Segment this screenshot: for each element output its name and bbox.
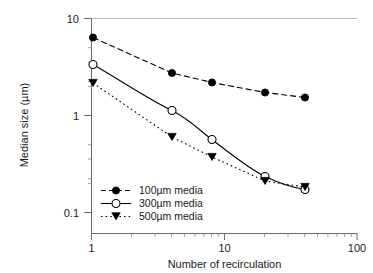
- data-point: [89, 61, 97, 69]
- y-axis-title: Median size (µm): [18, 83, 30, 168]
- data-point: [89, 79, 97, 86]
- legend-label-300um: 300µm media: [139, 197, 203, 209]
- axis-lines: [92, 18, 358, 234]
- legend: 100µm media 300µm media 500µm media: [101, 184, 203, 222]
- legend-item-300um: 300µm media: [101, 197, 203, 209]
- y-tick-label-top: 10: [67, 13, 79, 25]
- data-point: [168, 107, 176, 115]
- series-500um: [89, 79, 309, 190]
- x-axis-ticks: [92, 234, 358, 241]
- series-300um: [89, 61, 309, 194]
- data-point: [261, 177, 269, 184]
- legend-label-500um: 500µm media: [139, 210, 203, 222]
- legend-marker-filled-circle-icon: [112, 187, 119, 194]
- series-100um-line: [93, 38, 305, 98]
- y-tick-label-bottom: 0.1: [64, 207, 79, 219]
- legend-marker-open-circle-icon: [112, 200, 120, 208]
- chart-svg: 10 1 0.1 1 10 100 Number of recirculatio…: [0, 0, 373, 273]
- x-axis-title: Number of recirculation: [168, 258, 282, 270]
- x-tick-label-right: 100: [348, 242, 366, 254]
- legend-item-100um: 100µm media: [101, 184, 203, 196]
- data-point: [261, 89, 268, 96]
- series-500um-line: [93, 83, 305, 187]
- data-point: [208, 136, 216, 144]
- data-point: [301, 94, 308, 101]
- legend-item-500um: 500µm media: [101, 210, 203, 222]
- data-point: [168, 69, 175, 76]
- legend-label-100um: 100µm media: [139, 184, 203, 196]
- y-tick-label-mid: 1: [73, 110, 79, 122]
- x-tick-label-mid: 10: [218, 242, 230, 254]
- chart-figure: 10 1 0.1 1 10 100 Number of recirculatio…: [0, 0, 373, 273]
- data-point: [168, 133, 176, 140]
- series-300um-line: [93, 65, 305, 190]
- data-point: [208, 153, 216, 160]
- series-100um: [89, 34, 308, 101]
- data-point: [208, 79, 215, 86]
- x-tick-label-left: 1: [88, 242, 94, 254]
- legend-marker-filled-triangle-down-icon: [112, 213, 120, 220]
- data-point: [89, 34, 96, 41]
- y-axis-ticks: [84, 19, 92, 213]
